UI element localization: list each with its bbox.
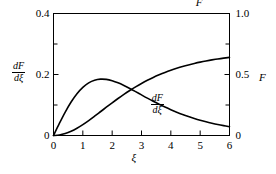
curve-label-f: F xyxy=(196,0,203,8)
x-tick-label-2: 2 xyxy=(102,140,122,151)
y-right-tick-label-2: 1.0 xyxy=(236,8,250,19)
x-tick-label-4: 4 xyxy=(161,140,181,151)
curve-label-dfdxi-denominator: dξ xyxy=(151,105,164,116)
y-axis-right-label: F xyxy=(259,72,266,83)
plot-frame xyxy=(54,14,230,136)
y-axis-left-label: dF dξ xyxy=(12,61,25,83)
x-axis-label: ξ xyxy=(132,152,152,163)
x-tick-label-3: 3 xyxy=(132,140,152,151)
y-axis-left-label-denominator: dξ xyxy=(12,73,25,84)
y-axis-left-label-numerator: dF xyxy=(12,61,25,73)
y-left-tick-label-2: 0.4 xyxy=(0,8,50,19)
x-tick-label-1: 1 xyxy=(73,140,93,151)
y-right-tick-label-1: 0.5 xyxy=(236,69,250,80)
figure-container: 0 0.2 0.4 0 0.5 1.0 0 1 2 3 4 5 6 dF dξ … xyxy=(0,0,276,174)
x-tick-label-5: 5 xyxy=(190,140,210,151)
x-tick-label-6: 6 xyxy=(220,140,240,151)
curve-label-dfdxi-numerator: dF xyxy=(151,93,164,105)
x-tick-label-0: 0 xyxy=(44,140,64,151)
curve-label-dfdxi: dF dξ xyxy=(151,93,164,115)
y-left-tick-label-0: 0 xyxy=(0,130,50,141)
